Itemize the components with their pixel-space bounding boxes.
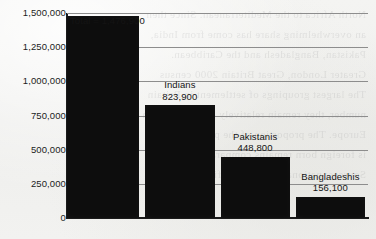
bar-annotation-value: 823,900	[120, 91, 240, 103]
bar	[296, 197, 365, 218]
bar-annotation: Indians823,900	[120, 79, 240, 102]
bar-annotation-value: 448,800	[195, 142, 315, 154]
y-axis-tick-label: 0	[0, 213, 66, 223]
bar-annotation-value: 156,100	[270, 182, 376, 194]
y-axis-tick-label: 250,000	[0, 179, 66, 189]
y-axis-tick-label: 1,000,000	[0, 77, 66, 87]
bar-annotation-name: Indians	[120, 79, 240, 91]
bar	[67, 16, 139, 218]
y-axis-tick-label: 750,000	[0, 111, 66, 121]
bar-annotation-total: Total = 1,476,900	[70, 15, 145, 26]
bar-annotation-name: Pakistanis	[195, 131, 315, 143]
bar-annotation-name: Bangladeshis	[270, 171, 376, 183]
y-axis-tick-label: 1,250,000	[0, 42, 66, 52]
bar-chart: 1,500,0001,250,0001,000,000750,000500,00…	[0, 0, 376, 239]
gridline	[67, 13, 368, 14]
y-axis-tick-label: 500,000	[0, 145, 66, 155]
y-axis-tick-label: 1,500,000	[0, 8, 66, 18]
bar	[145, 105, 214, 218]
bar-annotation: Bangladeshis156,100	[270, 171, 376, 194]
bar-annotation: Pakistanis448,800	[195, 131, 315, 154]
